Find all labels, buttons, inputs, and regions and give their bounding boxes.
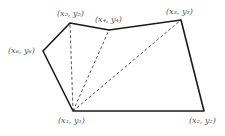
diagonal-1-3 — [73, 20, 181, 111]
vertex-label-4: (x₄, y₄) — [95, 15, 122, 24]
polygon-outline — [43, 20, 204, 111]
diagonal-1-5 — [70, 23, 73, 111]
vertex-label-3: (x₃, y₃) — [166, 7, 193, 16]
diagonal-1-4 — [73, 30, 109, 111]
polygon-diagram: (x₁, y₁) (x₂, y₂) (x₃, y₃) (x₄, y₄) (x₅,… — [0, 0, 225, 136]
vertex-label-6: (x₆, y₆) — [8, 46, 35, 55]
vertex-label-1: (x₁, y₁) — [58, 116, 85, 125]
vertex-label-5: (x₅, y₅) — [57, 9, 84, 18]
vertex-label-2: (x₂, y₂) — [189, 116, 216, 125]
